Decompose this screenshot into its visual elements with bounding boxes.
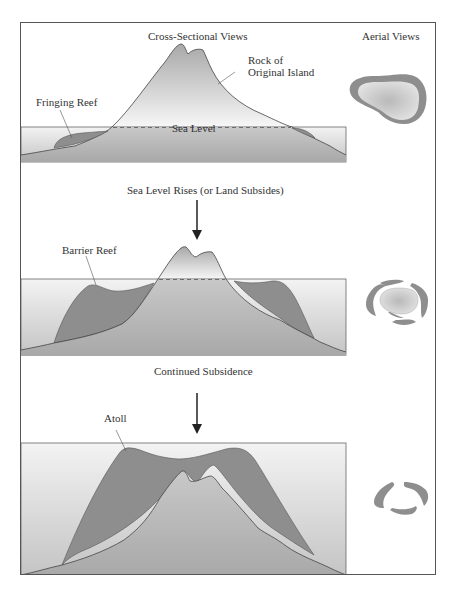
- header-cross-sectional: Cross-Sectional Views: [148, 30, 248, 42]
- label-sea-level: Sea Level: [172, 122, 216, 134]
- label-atoll: Atoll: [104, 412, 127, 424]
- reef-formation-diagram: [0, 0, 456, 594]
- aerial-view-fringing-reef: [350, 74, 427, 124]
- header-aerial: Aerial Views: [362, 30, 419, 42]
- aerial-view-atoll: [374, 482, 428, 515]
- label-rock-line1: Rock of: [248, 54, 283, 66]
- aerial-view-barrier-reef: [366, 280, 428, 325]
- arrow-down-icon: [192, 200, 202, 240]
- panel-barrier-reef: [21, 247, 346, 356]
- label-fringing-reef: Fringing Reef: [36, 96, 97, 108]
- panel-atoll: [21, 430, 346, 578]
- arrow-down-icon: [192, 393, 202, 434]
- label-barrier-reef: Barrier Reef: [62, 244, 117, 256]
- transition-continued-subsidence: Continued Subsidence: [154, 365, 253, 377]
- island-rock-above: [158, 247, 226, 279]
- label-rock-line2: Original Island: [248, 66, 314, 78]
- transition-sea-level-rises: Sea Level Rises (or Land Subsides): [127, 184, 284, 196]
